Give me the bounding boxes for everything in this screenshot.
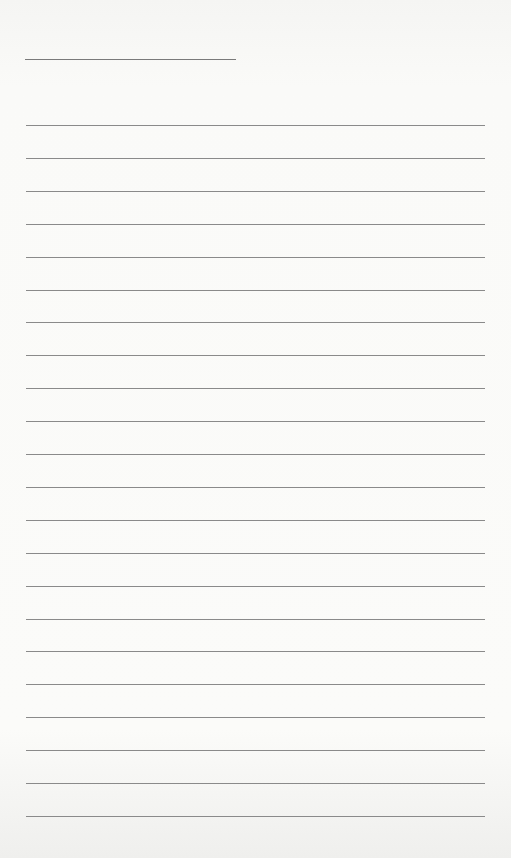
- ruled-line: [26, 684, 485, 685]
- title-underline: [25, 59, 236, 60]
- ruled-line: [26, 487, 485, 488]
- ruled-line: [26, 816, 485, 817]
- ruled-line: [26, 520, 485, 521]
- ruled-line: [26, 257, 485, 258]
- ruled-line: [26, 388, 485, 389]
- ruled-line: [26, 553, 485, 554]
- ruled-line: [26, 750, 485, 751]
- ruled-line: [26, 191, 485, 192]
- ruled-line: [26, 717, 485, 718]
- ruled-line: [26, 125, 485, 126]
- ruled-line: [26, 619, 485, 620]
- ruled-line: [26, 586, 485, 587]
- lined-paper-page: [0, 0, 511, 858]
- ruled-line: [26, 322, 485, 323]
- ruled-line: [26, 224, 485, 225]
- ruled-line: [26, 355, 485, 356]
- ruled-line: [26, 290, 485, 291]
- ruled-line: [26, 421, 485, 422]
- ruled-line: [26, 783, 485, 784]
- ruled-line: [26, 454, 485, 455]
- ruled-line: [26, 158, 485, 159]
- ruled-line: [26, 651, 485, 652]
